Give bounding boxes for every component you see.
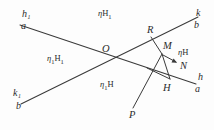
endpoint-label-k1: k₁ bbox=[13, 88, 21, 98]
point-label-N: N bbox=[180, 61, 187, 72]
point-label-P: P bbox=[129, 110, 135, 121]
plane-top-sub: 1 bbox=[108, 13, 111, 20]
diagram-canvas: O R M H N P h₁ a k₁ b k b h a ηH1 η1H1 η… bbox=[0, 0, 214, 130]
plane-left-sub2: 1 bbox=[61, 58, 64, 65]
point-label-H: H bbox=[163, 83, 171, 94]
plane-right-plane: H bbox=[182, 47, 188, 57]
segment-r-m bbox=[151, 37, 162, 54]
plane-bottom-plane: H bbox=[107, 79, 113, 89]
plane-label-right: ηH bbox=[178, 48, 188, 57]
endpoint-label-b-right: b bbox=[194, 20, 199, 30]
endpoint-label-h1: h₁ bbox=[22, 9, 30, 19]
endpoint-label-a-right: a bbox=[195, 84, 200, 94]
endpoint-label-a-left: a bbox=[21, 21, 26, 31]
point-label-M: M bbox=[163, 41, 172, 52]
endpoint-label-h: h bbox=[198, 72, 203, 82]
plane-label-top: ηH1 bbox=[98, 9, 112, 20]
point-label-R: R bbox=[147, 25, 153, 36]
endpoint-label-b-left: b bbox=[16, 101, 21, 111]
point-label-O: O bbox=[102, 44, 110, 55]
plane-label-left: η1H1 bbox=[47, 54, 64, 65]
segment-m-p bbox=[133, 54, 162, 108]
plane-label-bottom: η1H bbox=[100, 80, 114, 91]
arrow-head-n bbox=[172, 59, 178, 63]
endpoint-label-k: k bbox=[196, 8, 200, 18]
